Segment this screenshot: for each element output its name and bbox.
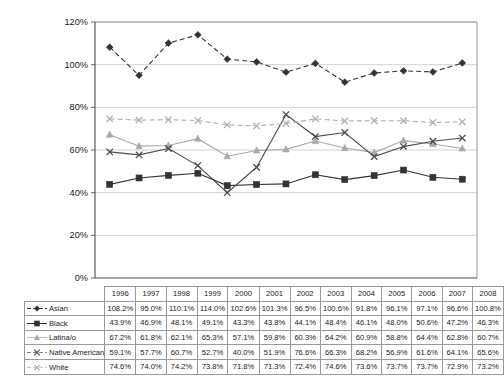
table-cell: 73.7% [382, 359, 412, 374]
diamond-marker-icon [400, 67, 407, 74]
table-year-header: 2004 [351, 287, 381, 302]
table-cell: 64.2% [320, 330, 351, 345]
table-cell: 60.7% [166, 345, 197, 360]
table-cell: 101.3% [259, 301, 290, 316]
table-row: Asian108.2%95.0%110.1%114.0%102.6%101.3%… [25, 301, 504, 316]
square-marker-icon [165, 172, 171, 178]
series-black [107, 167, 466, 189]
table-cell: 65.3% [197, 330, 228, 345]
series-marker-x-cross [459, 119, 465, 125]
table-cell: 97.1% [412, 301, 442, 316]
series-marker-square [312, 172, 318, 178]
square-marker-icon [430, 174, 436, 180]
table-cell: 61.6% [412, 345, 442, 360]
y-axis-tick-label: 100% [65, 60, 89, 70]
table-cell: 43.9% [105, 316, 136, 331]
chart-data-table: 1996199719981999200020012002200320042005… [24, 286, 504, 375]
table-cell: 44.1% [290, 316, 320, 331]
table-cell: 61.8% [136, 330, 166, 345]
series-marker-square [371, 173, 377, 179]
legend-label: Black [47, 319, 68, 328]
square-marker-icon [195, 170, 201, 176]
diamond-marker-icon [194, 31, 201, 38]
table-cell: 58.8% [382, 330, 412, 345]
table-row: Latina/o67.2%61.8%62.1%65.3%57.1%59.8%60… [25, 330, 504, 345]
series-marker-diamond [194, 31, 201, 38]
table-cell: 43.8% [259, 316, 290, 331]
table-cell: 66.3% [320, 345, 351, 360]
table-cell: 48.4% [320, 316, 351, 331]
table-year-header: 2001 [259, 287, 290, 302]
series-marker-square [107, 181, 113, 187]
table-cell: 57.1% [228, 330, 259, 345]
table-cell: 49.1% [197, 316, 228, 331]
series-marker-diamond [430, 69, 437, 76]
table-header-row: 1996199719981999200020012002200320042005… [25, 287, 504, 302]
legend-label: Asian [47, 304, 68, 313]
table-cell: 100.6% [320, 301, 351, 316]
table-cell: 95.0% [136, 301, 166, 316]
table-cell: 62.8% [442, 330, 472, 345]
legend-marker-icon [27, 319, 47, 328]
table-cell: 46.3% [472, 316, 503, 331]
table-year-header: 2006 [412, 287, 442, 302]
series-line [110, 119, 463, 126]
table-cell: 74.0% [136, 359, 166, 374]
table-cell: 110.1% [166, 301, 197, 316]
square-marker-icon [342, 177, 348, 183]
table-cell: 46.1% [351, 316, 381, 331]
table-cell: 57.7% [136, 345, 166, 360]
series-marker-diamond [459, 60, 466, 67]
diamond-marker-icon [312, 60, 319, 67]
table-cell: 73.6% [351, 359, 381, 374]
y-axis-tick-label: 60% [70, 145, 88, 155]
table-cell: 74.6% [105, 359, 136, 374]
series-marker-x-cross [253, 164, 259, 170]
series-white [106, 116, 465, 129]
table-row: Native American59.1%57.7%60.7%52.7%40.0%… [25, 345, 504, 360]
table-row: Black43.9%46.9%48.1%49.1%43.3%43.8%44.1%… [25, 316, 504, 331]
legend-marker-icon [27, 348, 47, 357]
table-cell: 74.2% [166, 359, 197, 374]
table-cell: 60.9% [351, 330, 381, 345]
table-cell: 50.6% [412, 316, 442, 331]
table-cell: 47.2% [442, 316, 472, 331]
square-marker-icon [312, 172, 318, 178]
table-cell: 73.2% [472, 359, 503, 374]
series-marker-diamond [371, 70, 378, 77]
y-axis-tick-label: 80% [70, 102, 88, 112]
legend-label: White [47, 363, 68, 372]
table-cell: 100.8% [472, 301, 503, 316]
series-marker-square [254, 182, 260, 188]
table-year-header: 1996 [105, 287, 136, 302]
table-cell: 96.1% [382, 301, 412, 316]
table-year-header: 1998 [166, 287, 197, 302]
square-marker-icon [371, 173, 377, 179]
series-marker-square [165, 172, 171, 178]
table-year-header: 1999 [197, 287, 228, 302]
series-marker-diamond [283, 69, 290, 76]
series-marker-triangle [400, 137, 407, 143]
legend-marker-icon [27, 304, 47, 313]
table-cell: 114.0% [197, 301, 228, 316]
table-cell: 43.3% [228, 316, 259, 331]
square-marker-icon [401, 167, 407, 173]
table-body: Asian108.2%95.0%110.1%114.0%102.6%101.3%… [25, 301, 504, 374]
table-year-header: 2007 [442, 287, 472, 302]
table-row: White74.6%74.0%74.2%73.8%71.8%71.3%72.4%… [25, 359, 504, 374]
table-cell: 108.2% [105, 301, 136, 316]
table-cell: 73.7% [412, 359, 442, 374]
table-cell: 40.0% [228, 345, 259, 360]
legend-marker-icon [27, 363, 47, 372]
square-marker-icon [283, 181, 289, 187]
square-marker-icon [136, 175, 142, 181]
legend-entry-asian: Asian [25, 301, 105, 316]
diamond-marker-icon [224, 56, 231, 63]
table-year-header: 2003 [320, 287, 351, 302]
table-cell: 56.9% [382, 345, 412, 360]
table-cell: 65.6% [472, 345, 503, 360]
series-marker-diamond [400, 67, 407, 74]
legend-label: Latina/o [47, 333, 76, 342]
table-cell: 72.4% [290, 359, 320, 374]
table-cell: 68.2% [351, 345, 381, 360]
